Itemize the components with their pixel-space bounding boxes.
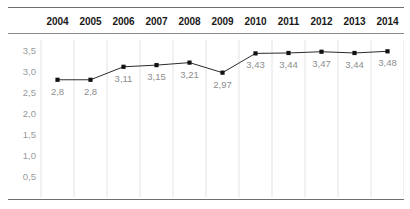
data-point-label: 2,8 — [84, 86, 97, 97]
bottom-rule — [8, 199, 404, 200]
year-header-2010: 2010 — [239, 13, 272, 31]
data-point-label: 3,44 — [279, 59, 298, 70]
data-point-label: 3,43 — [246, 59, 265, 70]
year-header-2009: 2009 — [206, 13, 239, 31]
data-point-label: 3,47 — [312, 58, 331, 69]
data-point-marker — [220, 71, 224, 75]
data-point-marker — [253, 51, 257, 55]
year-header-2004: 2004 — [41, 13, 74, 31]
year-header-2008: 2008 — [173, 13, 206, 31]
year-header-2005: 2005 — [74, 13, 107, 31]
year-header-2011: 2011 — [272, 13, 305, 31]
data-point-label: 3,21 — [180, 69, 199, 80]
data-point-label: 2,8 — [51, 86, 64, 97]
year-header-2014: 2014 — [371, 13, 404, 31]
data-point-label: 3,11 — [115, 73, 133, 84]
data-point-marker — [121, 65, 125, 69]
year-header-2007: 2007 — [140, 13, 173, 31]
plot-area: 0,51,01,52,02,53,03,5 2,82,83,113,153,21… — [8, 40, 404, 198]
year-header-2012: 2012 — [305, 13, 338, 31]
data-point-label: 3,44 — [345, 59, 364, 70]
data-point-label: 2,97 — [213, 79, 232, 90]
top-rule — [8, 7, 404, 8]
data-point-marker — [55, 78, 59, 82]
year-header-row: 2004200520062007200820092010201120122013… — [8, 13, 404, 31]
data-point-label: 3,15 — [147, 71, 166, 82]
data-point-marker — [319, 50, 323, 54]
year-header-2013: 2013 — [338, 13, 371, 31]
header-rule — [8, 33, 404, 34]
data-point-marker — [286, 51, 290, 55]
series-line — [58, 51, 388, 79]
header-corner-spacer — [8, 13, 41, 31]
data-point-marker — [154, 63, 158, 67]
line-chart: 2004200520062007200820092010201120122013… — [0, 0, 410, 209]
data-point-label: 3,48 — [378, 57, 397, 68]
data-point-marker — [187, 61, 191, 65]
data-point-marker — [385, 49, 389, 53]
year-header-2006: 2006 — [107, 13, 140, 31]
data-point-marker — [352, 51, 356, 55]
data-point-marker — [88, 78, 92, 82]
